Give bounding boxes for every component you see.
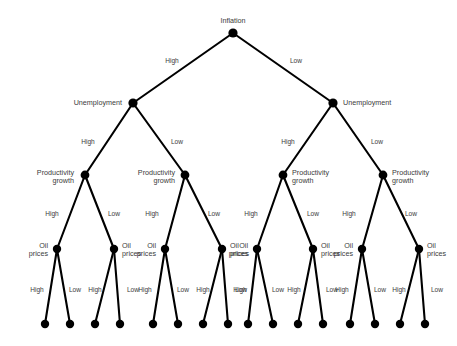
tree-edge (185, 175, 222, 249)
tree-edge (133, 33, 233, 103)
tree-nodes (41, 28, 429, 328)
tree-edge (233, 33, 333, 103)
tree-node[interactable] (81, 171, 90, 180)
tree-node[interactable] (218, 245, 226, 253)
tree-leaf-node[interactable] (346, 320, 354, 328)
tree-edge (362, 175, 383, 249)
tree-edge (165, 175, 185, 249)
tree-edge (400, 249, 419, 324)
tree-node[interactable] (161, 245, 169, 253)
tree-node[interactable] (253, 245, 261, 253)
tree-edge (298, 249, 313, 324)
tree-leaf-node[interactable] (41, 320, 49, 328)
tree-node[interactable] (358, 245, 366, 253)
tree-edge (95, 249, 114, 324)
tree-edge (133, 103, 185, 175)
tree-edge (257, 249, 273, 324)
tree-node[interactable] (181, 171, 190, 180)
tree-node[interactable] (128, 98, 137, 107)
tree-node[interactable] (53, 245, 61, 253)
tree-edge (45, 249, 57, 324)
tree-leaf-node[interactable] (294, 320, 302, 328)
tree-leaf-node[interactable] (396, 320, 404, 328)
tree-leaf-node[interactable] (421, 320, 429, 328)
tree-leaf-node[interactable] (174, 320, 182, 328)
tree-edge (257, 175, 283, 249)
tree-leaf-node[interactable] (371, 320, 379, 328)
tree-leaf-node[interactable] (269, 320, 277, 328)
tree-node[interactable] (279, 171, 288, 180)
tree-edge (283, 103, 333, 175)
tree-node[interactable] (415, 245, 423, 253)
tree-edge (153, 249, 165, 324)
tree-edge (114, 249, 120, 324)
tree-leaf-node[interactable] (149, 320, 157, 328)
tree-edge (362, 249, 375, 324)
tree-edge (419, 249, 425, 324)
tree-edges (45, 33, 425, 324)
tree-edge (248, 249, 257, 324)
tree-node[interactable] (228, 28, 237, 37)
tree-edge (383, 175, 419, 249)
tree-leaf-node[interactable] (91, 320, 99, 328)
tree-edge (313, 249, 323, 324)
tree-edge (222, 249, 228, 324)
tree-node[interactable] (110, 245, 118, 253)
tree-edge (85, 103, 133, 175)
tree-leaf-node[interactable] (116, 320, 124, 328)
tree-leaf-node[interactable] (244, 320, 252, 328)
tree-node[interactable] (328, 98, 337, 107)
tree-leaf-node[interactable] (224, 320, 232, 328)
tree-edge (350, 249, 362, 324)
tree-leaf-node[interactable] (319, 320, 327, 328)
tree-edge (333, 103, 383, 175)
tree-leaf-node[interactable] (66, 320, 74, 328)
tree-edge (283, 175, 313, 249)
tree-edge (57, 175, 85, 249)
tree-node[interactable] (379, 171, 388, 180)
tree-edge (57, 249, 70, 324)
tree-edge (85, 175, 114, 249)
tree-node[interactable] (309, 245, 317, 253)
tree-edge (165, 249, 178, 324)
tree-leaf-node[interactable] (199, 320, 207, 328)
tree-edge (203, 249, 222, 324)
tree-canvas (0, 0, 457, 346)
decision-tree-figure: HighLowHighLowHighLowHighLowHighLowHighL… (0, 0, 457, 346)
